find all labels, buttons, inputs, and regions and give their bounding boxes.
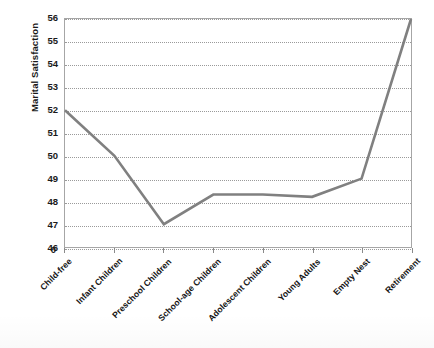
y-axis-tick-label: 50 <box>32 151 58 161</box>
x-axis-tick-label: Empty Nest <box>331 256 372 297</box>
y-axis-tick-label: 47 <box>32 220 58 230</box>
y-axis-tick-label: 54 <box>32 59 58 69</box>
y-axis-tick-label: 52 <box>32 105 58 115</box>
y-axis-tick-label: 55 <box>32 36 58 46</box>
y-axis-tick-label: 48 <box>32 197 58 207</box>
y-axis-tick-label: 53 <box>32 82 58 92</box>
y-axis-tick-label: 56 <box>32 13 58 23</box>
y-axis-tick-label: 49 <box>32 174 58 184</box>
plot-area <box>64 18 412 248</box>
y-axis-tick-label: 51 <box>32 128 58 138</box>
x-axis-tick-label: Child-free <box>38 256 74 292</box>
x-axis-tick-label: Infant Children <box>74 256 124 306</box>
x-axis-tick-label: Young Adults <box>276 256 322 302</box>
series-line-marital-satisfaction <box>65 19 411 247</box>
x-axis-tick-labels: Child-freeInfant ChildrenPreschool Child… <box>0 248 434 348</box>
line-chart: Marital Satisfaction 4647484950515253545… <box>0 0 434 348</box>
x-axis-tick-label: Retirement <box>383 256 422 295</box>
